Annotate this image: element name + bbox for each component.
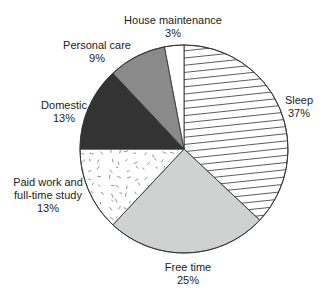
pie-slices [80,45,288,253]
domestic-label: Domestic [41,99,87,111]
sleep-value: 37% [288,107,310,119]
label-sleep: Sleep 37% [285,94,313,119]
personal-care-label: Personal care [63,39,131,51]
free-time-value: 25% [177,274,199,286]
paid-work-value: 13% [37,202,59,214]
label-personal-care: Personal care 9% [63,39,131,64]
domestic-value: 13% [53,112,75,124]
label-domestic: Domestic 13% [41,99,87,124]
house-maintenance-value: 3% [165,27,181,39]
free-time-label: Free time [165,261,211,273]
paid-work-label-line1: Paid work and [13,176,83,188]
sleep-label: Sleep [285,94,313,106]
pie-chart: House maintenance 3% Personal care 9% Sl… [0,0,333,298]
personal-care-value: 9% [89,52,105,64]
label-house-maintenance: House maintenance 3% [124,14,222,39]
label-paid-work: Paid work and full-time study 13% [13,176,83,214]
house-maintenance-label: House maintenance [124,14,222,26]
label-free-time: Free time 25% [165,261,211,286]
paid-work-label-line2: full-time study [14,189,82,201]
